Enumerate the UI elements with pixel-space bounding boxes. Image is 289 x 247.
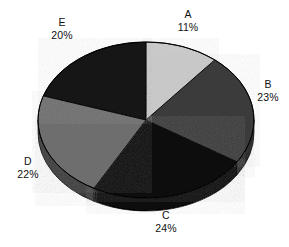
pie-label-a-value: 11% (168, 21, 208, 34)
pie-label-b: B 23% (248, 78, 288, 104)
pie-label-e-value: 20% (42, 29, 82, 42)
pie-chart: A 11% B 23% C 24% D 22% E 20% (0, 0, 289, 247)
pie-label-d-name: D (8, 155, 48, 168)
pie-label-d: D 22% (8, 155, 48, 181)
pie-label-e: E 20% (42, 16, 82, 42)
pie-label-a-name: A (168, 8, 208, 21)
pie-label-c-value: 24% (146, 222, 186, 235)
pie-label-c: C 24% (146, 209, 186, 235)
pie-label-e-name: E (42, 16, 82, 29)
pie-label-a: A 11% (168, 8, 208, 34)
pie-label-c-name: C (146, 209, 186, 222)
pie-label-b-name: B (248, 78, 288, 91)
pie-label-b-value: 23% (248, 91, 288, 104)
pie-slices (38, 42, 254, 198)
pie-label-d-value: 22% (8, 168, 48, 181)
